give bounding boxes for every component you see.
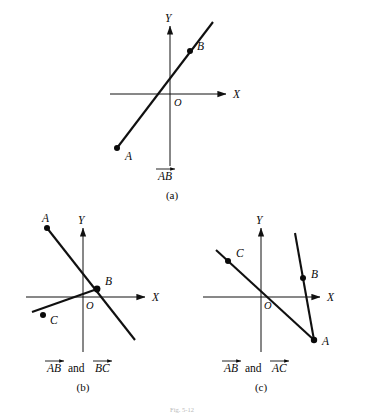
panel-b-point-c-label: C [50,314,58,326]
panel-c-point-a-label: A [321,335,330,347]
panel-c-point-b-dot [300,275,306,281]
panel-c-point-a-dot [311,337,317,343]
panel-a-caption: (a) [166,189,179,202]
panel-b-caption: (b) [77,381,90,394]
panel-b: A B C X Y O AB and BC (b) [26,212,160,394]
panel-b-point-a-label: A [41,212,50,224]
figure-caption: Fig. 5-12 [170,406,194,413]
panel-c-point-b-label: B [311,268,318,280]
panel-a-y-axis-label: Y [165,12,173,24]
panel-a-origin-label: O [174,97,182,108]
panel-a-point-a-dot [114,145,120,151]
panel-c-origin-label: O [264,300,272,311]
panel-b-vector-connector: and [68,362,85,374]
panel-b-point-b-dot [94,286,101,293]
panel-a-point-a-label: A [124,150,133,162]
panel-b-x-axis-label: X [151,291,160,303]
panel-c-ray-ac [216,250,314,340]
panel-c-y-axis-label: Y [256,214,264,226]
panel-c-x-axis-label: X [326,291,335,303]
panel-a-vector-caption: AB [156,169,175,182]
panel-b-vector-caption: AB and BC [45,361,112,374]
panel-a-x-axis-label: X [232,88,241,100]
panel-c-vector-connector: and [245,362,262,374]
panel-c: A B C X Y O AB and AC (c) [203,214,335,394]
panel-a-point-b-label: B [197,40,204,52]
panel-b-vector-text-2: BC [95,362,110,374]
panel-a: A B X Y O AB (a) [110,12,241,202]
panel-b-point-b-label: B [105,275,112,287]
panel-c-caption: (c) [255,381,268,394]
panel-c-vector-text-1: AB [223,362,238,374]
panel-a-vector-text: AB [157,170,172,182]
vector-figure-plate: A B X Y O AB (a) A B C [0,0,365,417]
panel-a-point-b-dot [187,48,193,54]
figure-canvas: A B X Y O AB (a) A B C [0,0,365,417]
panel-b-y-axis-label: Y [78,214,86,226]
panel-c-point-c-label: C [236,247,244,259]
panel-b-origin-label: O [86,300,94,311]
panel-b-ray-ab [47,228,135,340]
panel-c-point-c-dot [225,258,231,264]
panel-c-vector-caption: AB and AC [222,361,289,374]
panel-b-point-a-dot [44,225,50,231]
panel-b-vector-text-1: AB [46,362,61,374]
panel-b-point-c-dot [40,312,46,318]
panel-c-vector-text-2: AC [271,362,287,374]
